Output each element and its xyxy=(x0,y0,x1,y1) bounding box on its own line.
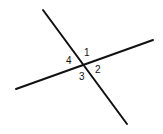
angle-label-4: 4 xyxy=(66,55,72,66)
angle-label-2: 2 xyxy=(95,64,101,75)
angle-label-3: 3 xyxy=(79,71,85,82)
line-a xyxy=(43,10,127,124)
diagram-svg: 1 2 3 4 xyxy=(0,0,163,134)
intersecting-lines-diagram: 1 2 3 4 xyxy=(0,0,163,134)
angle-label-1: 1 xyxy=(84,47,90,58)
